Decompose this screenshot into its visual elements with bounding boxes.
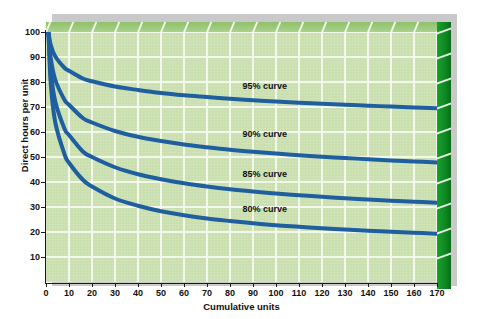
x-axis-tick [414,283,415,287]
x-tick-label: 100 [264,288,288,298]
x-tick-label: 80 [218,288,242,298]
side-face-slat [437,152,451,159]
x-tick-label: 140 [356,288,380,298]
y-axis-tick [41,182,45,183]
y-axis-tick [41,132,45,133]
x-tick-label: 170 [425,288,449,298]
side-face-slat [437,52,451,59]
x-axis-tick [115,283,116,287]
y-axis-tick [41,232,45,233]
x-axis-tick [207,283,208,287]
y-axis-tick [41,107,45,108]
curve-lines [46,32,437,282]
y-axis-tick [41,207,45,208]
side-face-slat [437,177,451,184]
side-face-slat [437,77,451,84]
curve-95 [46,32,437,108]
side-face-slat [437,227,451,234]
side-face-slat [437,102,451,109]
y-tick-label: 20 [0,228,40,237]
curve-label-80: 80% curve [243,204,288,214]
x-axis-tick [46,283,47,287]
y-axis-tick [41,257,45,258]
x-axis-tick [92,283,93,287]
x-axis-tick [138,283,139,287]
x-axis-tick [161,283,162,287]
x-tick-label: 150 [379,288,403,298]
y-axis-title: Direct hours per unit [19,56,30,196]
x-axis-line [45,283,438,284]
y-tick-label: 30 [0,203,40,212]
x-tick-label: 90 [241,288,265,298]
x-tick-label: 130 [333,288,357,298]
curve-label-90: 90% curve [243,129,288,139]
x-tick-label: 120 [310,288,334,298]
side-face-slat [437,202,451,209]
y-axis-tick [41,157,45,158]
side-face-slat [437,27,451,34]
y-tick-label: 100 [0,28,40,37]
y-axis-tick [41,57,45,58]
x-tick-label: 10 [57,288,81,298]
x-tick-label: 40 [126,288,150,298]
x-axis-tick [276,283,277,287]
x-axis-tick [69,283,70,287]
x-axis-tick [299,283,300,287]
x-axis-title: Cumulative units [46,301,437,312]
y-axis-tick [41,32,45,33]
x-tick-label: 30 [103,288,127,298]
x-axis-tick [184,283,185,287]
x-axis-tick [345,283,346,287]
side-face-slat [437,127,451,134]
curve-label-85: 85% curve [243,169,288,179]
x-tick-label: 50 [149,288,173,298]
y-axis-tick [41,82,45,83]
chart-3d-right-face [437,22,451,289]
curve-90 [46,32,437,163]
x-axis-tick [437,283,438,287]
x-axis-tick [368,283,369,287]
x-tick-label: 160 [402,288,426,298]
y-tick-label: 10 [0,253,40,262]
x-axis-tick [230,283,231,287]
side-face-slat [437,252,451,259]
plot-area [46,32,437,282]
x-axis-tick [253,283,254,287]
curve-label-95: 95% curve [243,81,288,91]
y-axis-line [45,30,46,284]
x-axis-tick [322,283,323,287]
x-tick-label: 110 [287,288,311,298]
curve-85 [46,32,437,203]
x-tick-label: 70 [195,288,219,298]
curve-80 [46,32,437,234]
x-tick-label: 20 [80,288,104,298]
x-tick-label: 0 [34,288,58,298]
x-tick-label: 60 [172,288,196,298]
x-axis-tick [391,283,392,287]
learning-curve-chart: 102030405060708090100 010203040506070809… [0,0,477,319]
